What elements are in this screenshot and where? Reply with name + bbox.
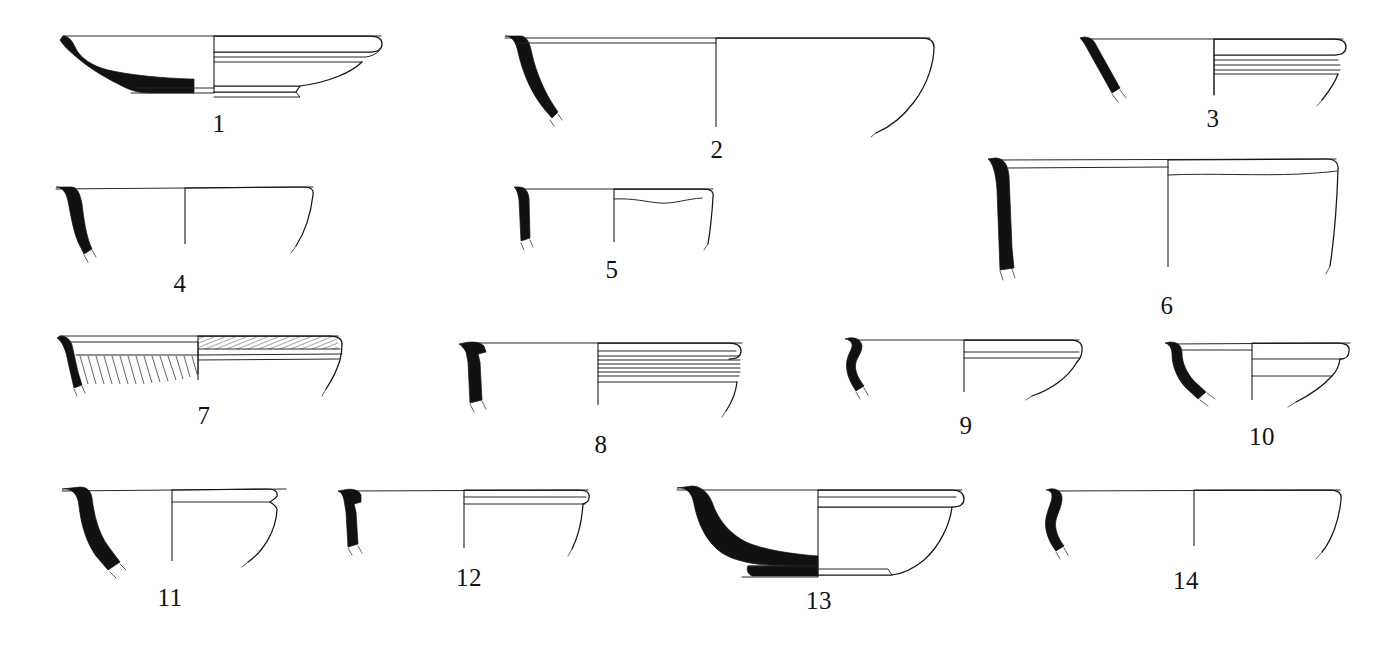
figure-4-section-fill <box>56 187 92 254</box>
figure-2-drawing <box>505 36 934 137</box>
figure-14-drawing <box>1045 489 1341 559</box>
figure-5-drawing <box>514 187 713 250</box>
figure-7-section-fill <box>57 336 82 388</box>
figure-6-section-fill <box>988 158 1014 270</box>
figure-3-section-fill <box>1080 37 1120 93</box>
figure-1-elevation-outline <box>214 36 382 52</box>
figure-label-14: 14 <box>1173 568 1199 593</box>
figure-1-drawing <box>60 36 382 97</box>
figure-9-section-fill <box>845 338 864 391</box>
figure-label-12: 12 <box>456 565 482 590</box>
figure-label-6: 6 <box>1161 293 1174 318</box>
figure-3-drawing <box>1080 37 1346 106</box>
figure-12-section-fill <box>338 489 361 547</box>
figure-6-band-line <box>1168 171 1337 175</box>
figure-9-elevation-outline <box>964 340 1082 362</box>
figure-label-11: 11 <box>157 585 182 610</box>
figure-8-section-fill <box>459 342 486 403</box>
figure-label-7: 7 <box>198 403 211 428</box>
figure-label-4: 4 <box>174 271 187 296</box>
figure-7-comb-band <box>198 337 338 349</box>
figure-12-drawing <box>338 489 589 556</box>
figure-5-elevation-outline <box>614 189 713 244</box>
figure-2-section-fill <box>505 36 558 118</box>
figure-1-section-fill <box>60 36 194 93</box>
figure-9-drawing <box>845 338 1082 400</box>
figure-4-elevation-outline <box>185 187 313 246</box>
figure-label-10: 10 <box>1249 424 1275 449</box>
plate-drawing-canvas <box>0 0 1390 650</box>
figure-14-elevation-outline <box>1194 490 1341 552</box>
figure-4-drawing <box>56 187 313 262</box>
figure-5-section-fill <box>514 187 530 241</box>
figure-11-elevation-outline <box>172 489 277 562</box>
figure-label-1: 1 <box>213 111 226 136</box>
figure-14-section-fill <box>1045 489 1064 551</box>
figure-8-drawing <box>459 342 742 417</box>
figure-11-section-fill <box>62 487 120 570</box>
figure-label-5: 5 <box>606 257 619 282</box>
figure-7-drawing <box>57 336 342 396</box>
figure-label-8: 8 <box>595 432 608 457</box>
figure-label-13: 13 <box>806 588 832 613</box>
figure-10-elevation-outline <box>1252 343 1349 359</box>
figure-label-9: 9 <box>960 413 973 438</box>
figure-label-2: 2 <box>711 137 724 162</box>
figure-10-section-fill <box>1165 342 1206 399</box>
figure-3-elevation-outline <box>1214 39 1346 55</box>
figure-13-elevation-outline <box>818 490 964 507</box>
figure-13-drawing <box>677 486 964 577</box>
figure-2-elevation-outline <box>716 38 934 133</box>
figure-5-wavy-line <box>614 198 702 203</box>
figure-6-drawing <box>988 158 1338 280</box>
figure-11-drawing <box>62 487 286 578</box>
pottery-profile-plate: 1 2 3 4 5 6 7 8 9 10 11 12 13 14 <box>0 0 1390 650</box>
figure-10-drawing <box>1165 342 1350 407</box>
figure-label-3: 3 <box>1207 106 1220 131</box>
figure-13-section-fill <box>677 486 818 576</box>
